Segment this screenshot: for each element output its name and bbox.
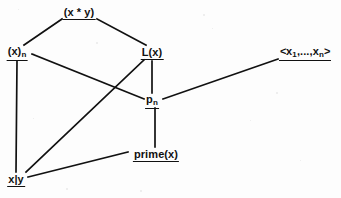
scan-speckle [66,188,68,190]
edge-l-of-x-to-divides [26,60,144,172]
scan-speckle [33,118,34,119]
node-product: (x * y) [63,6,96,20]
scan-speckle [250,120,251,121]
edge-layer [0,0,341,198]
node-l-of-x: L(x) [141,46,164,60]
scan-speckle [140,190,142,192]
node-divides-label: x|y [8,173,24,185]
node-sequence-var2: x [313,45,319,57]
node-divides: x|y [7,173,25,187]
node-x-sub-n-label: (x) [8,45,22,57]
scan-speckle [18,9,19,10]
edge-p-sub-n-to-sequence [163,59,278,99]
scan-speckle [96,42,98,44]
edge-product-to-x-sub-n [24,19,62,45]
node-p-sub-n: pn [145,93,159,109]
scan-speckle [203,14,205,16]
scan-speckle [276,92,278,94]
node-sequence-sub1: 1 [292,50,297,59]
node-l-of-x-label: L(x) [142,46,163,58]
node-prime: prime(x) [133,148,179,162]
node-sequence-ellipsis: ,..., [297,45,313,57]
scan-speckle [212,28,213,29]
edge-x-sub-n-to-divides [16,61,17,172]
node-x-sub-n-subscript: n [21,50,26,59]
node-p-sub-n-subscript: n [153,98,158,107]
node-p-sub-n-label: p [146,93,153,105]
edge-product-to-l-of-x [97,19,146,45]
node-sequence: <x1,...,xn> [279,45,331,61]
diagram-canvas: (x * y) (x)n L(x) <x1,...,xn> pn prime(x… [0,0,341,198]
scan-speckle [300,160,301,161]
node-prime-label: prime(x) [134,148,178,160]
node-product-label: (x * y) [64,6,95,18]
node-sequence-close: > [324,45,330,57]
node-sequence-sub2: n [319,50,324,59]
node-x-sub-n: (x)n [7,45,28,61]
